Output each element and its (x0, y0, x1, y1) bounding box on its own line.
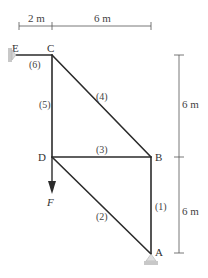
dim-label-ec: 2 m (28, 12, 45, 24)
member-label-6: (6) (29, 59, 41, 71)
horizontal-dimension: 2 m 6 m (19, 12, 151, 30)
member-label-5: (5) (39, 99, 51, 111)
node-label-a: A (155, 246, 163, 258)
truss-diagram: 2 m 6 m 6 m 6 m (6) (5) (4) (3) (2) (1) … (0, 0, 208, 278)
vertical-dimension: 6 m 6 m (174, 55, 199, 253)
member-2 (52, 157, 151, 254)
truss-members (16, 55, 151, 254)
load-f-arrow-icon (48, 157, 56, 194)
node-label-b: B (155, 151, 162, 163)
dim-label-upper: 6 m (182, 98, 199, 110)
member-4 (52, 55, 151, 157)
member-label-3: (3) (96, 144, 108, 156)
dim-label-lower: 6 m (182, 205, 199, 217)
member-label-4: (4) (96, 91, 108, 103)
node-label-c: C (47, 42, 54, 54)
load-label-f: F (46, 196, 54, 208)
dim-label-cb: 6 m (94, 12, 111, 24)
member-label-2: (2) (96, 211, 108, 223)
node-label-d: D (38, 151, 46, 163)
member-label-1: (1) (155, 201, 167, 213)
